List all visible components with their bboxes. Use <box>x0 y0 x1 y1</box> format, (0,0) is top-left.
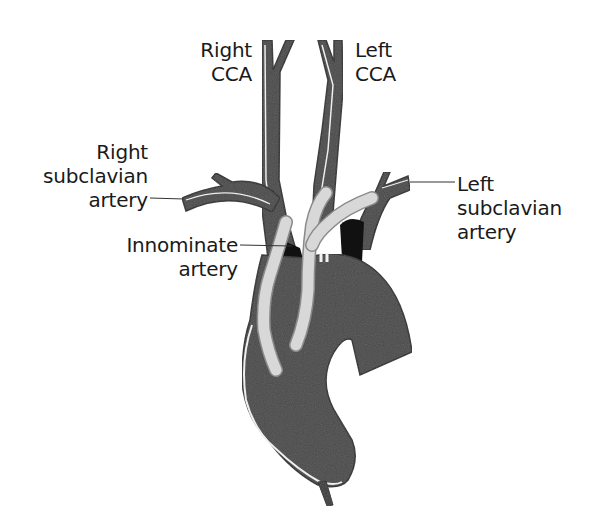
label-left-cca-line1: Left <box>355 38 435 62</box>
label-right-cca-line2: CCA <box>170 62 252 86</box>
label-right-cca: Right CCA <box>170 38 252 86</box>
label-innominate-line2: artery <box>100 257 238 281</box>
label-left-subclavian-line1: Left <box>457 172 577 196</box>
label-right-subclavian: Right subclavian artery <box>20 140 148 212</box>
label-left-subclavian-line2: subclavian <box>457 196 577 220</box>
label-right-subclavian-line2: subclavian <box>20 164 148 188</box>
label-left-cca-line2: CCA <box>355 62 435 86</box>
label-innominate-line1: Innominate <box>100 233 238 257</box>
label-left-cca: Left CCA <box>355 38 435 86</box>
label-left-subclavian: Left subclavian artery <box>457 172 577 244</box>
label-right-subclavian-line1: Right <box>20 140 148 164</box>
aortic-arch-diagram <box>0 0 593 524</box>
label-left-subclavian-line3: artery <box>457 220 577 244</box>
label-innominate: Innominate artery <box>100 233 238 281</box>
label-right-cca-line1: Right <box>170 38 252 62</box>
label-right-subclavian-line3: artery <box>20 188 148 212</box>
leader-right-subclavian <box>150 198 184 199</box>
